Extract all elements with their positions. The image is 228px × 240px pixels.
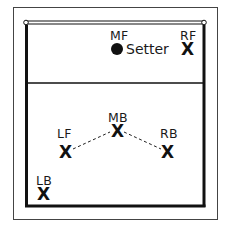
net-post-left-icon (24, 20, 29, 25)
player-marker-lb-x-icon: X (37, 186, 50, 203)
player-marker-rb-x-icon: X (161, 144, 174, 161)
player-marker-mb-x-icon: X (111, 123, 124, 140)
setter-dot-icon (111, 43, 123, 55)
player-marker-lf-x-icon: X (59, 144, 72, 161)
player-marker-rf-x-icon: X (181, 41, 194, 58)
net-post-right-icon (202, 20, 207, 25)
player-label-lf: LF (57, 128, 72, 141)
connection-lf-mb (73, 132, 110, 149)
player-label-rb: RB (160, 128, 178, 141)
connection-mb-rb (124, 132, 161, 149)
setter-role-label: Setter (126, 42, 169, 56)
